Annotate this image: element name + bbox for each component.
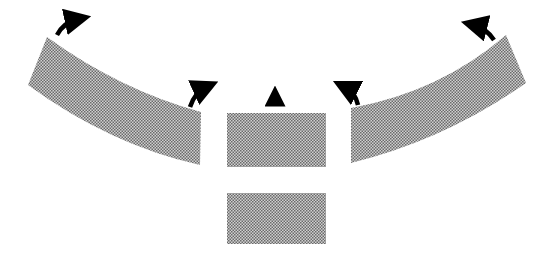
center-bottom-block: [227, 193, 326, 244]
diagram-svg: [0, 0, 556, 254]
diagram-canvas: [0, 0, 556, 254]
arrow-right-outer-icon: [474, 25, 494, 40]
center-top-block: [227, 113, 326, 167]
arrow-left-outer-icon: [57, 19, 78, 35]
arrow-right-inner-icon: [345, 87, 358, 105]
arrow-left-inner-icon: [190, 87, 206, 107]
right-band: [351, 35, 526, 163]
left-band: [28, 37, 201, 165]
